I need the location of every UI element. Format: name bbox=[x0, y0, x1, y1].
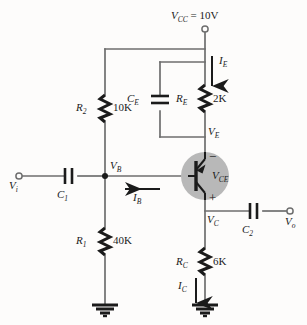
node-label-vce: VCE bbox=[212, 170, 228, 181]
resistor-value-rc: 6K bbox=[213, 256, 226, 267]
node-label-ve: VE bbox=[208, 126, 219, 137]
resistor-label-r1: R1 bbox=[76, 235, 86, 246]
terminal-label-vi: Vi bbox=[9, 180, 18, 191]
resistor-label-r2: R2 bbox=[76, 102, 86, 113]
capacitor-label-c2: C2 bbox=[242, 224, 253, 235]
ground-left-symbol bbox=[92, 305, 118, 316]
circuit-diagram-canvas: VCC = 10V IE CE RE 2K R2 10K VE − VCE + … bbox=[0, 0, 307, 325]
terminal-label-vo: Vo bbox=[285, 216, 295, 227]
vo-terminal-circle bbox=[287, 208, 293, 214]
resistor-value-r2: 10K bbox=[113, 102, 132, 113]
schematic-svg bbox=[0, 0, 307, 325]
capacitor-ce-symbol bbox=[151, 96, 169, 103]
capacitor-c1-symbol bbox=[65, 168, 72, 184]
current-label-ib: IB bbox=[133, 192, 141, 203]
vce-plus-sign: + bbox=[209, 191, 216, 204]
current-label-ie: IE bbox=[219, 55, 227, 66]
vcc-terminal-circle bbox=[202, 26, 208, 32]
resistor-value-re: 2K bbox=[213, 93, 226, 104]
resistor-re-symbol bbox=[200, 85, 210, 112]
vce-minus-sign: − bbox=[209, 150, 216, 163]
resistor-label-re: RE bbox=[176, 93, 187, 104]
resistor-r2-symbol bbox=[100, 95, 110, 122]
ground-right-symbol bbox=[192, 305, 218, 316]
vcc-label: VCC = 10V bbox=[171, 10, 218, 21]
capacitor-label-c1: C1 bbox=[57, 189, 68, 200]
resistor-r1-symbol bbox=[100, 228, 110, 255]
resistor-label-rc: RC bbox=[176, 256, 188, 267]
vi-terminal-circle bbox=[16, 173, 22, 179]
resistor-rc-symbol bbox=[200, 248, 210, 275]
resistor-value-r1: 40K bbox=[113, 235, 132, 246]
node-label-vc: VC bbox=[207, 214, 219, 225]
node-label-vb: VB bbox=[110, 160, 121, 171]
capacitor-c2-symbol bbox=[250, 203, 257, 219]
vb-junction-dot bbox=[102, 173, 108, 179]
current-label-ic: IC bbox=[178, 280, 187, 291]
